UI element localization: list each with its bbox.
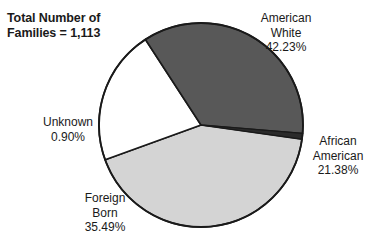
slice-value-african-american: 21.38% (307, 163, 369, 178)
slice-label-unknown-line-1: Unknown (25, 115, 111, 130)
slice-value-unknown: 0.90% (25, 130, 111, 145)
slice-label-american-white-line-2: White (243, 26, 329, 41)
slice-label-foreign-born-line-2: Born (60, 206, 150, 221)
slice-label-american-white: American White 42.23% (243, 11, 329, 55)
slice-value-foreign-born: 35.49% (60, 220, 150, 235)
slice-label-foreign-born: Foreign Born 35.49% (60, 191, 150, 235)
slice-label-unknown: Unknown 0.90% (25, 115, 111, 144)
slice-label-african-american: African American 21.38% (307, 134, 369, 178)
slice-label-foreign-born-line-1: Foreign (60, 191, 150, 206)
pie-chart-figure: Total Number of Families = 1,113 America… (0, 0, 371, 240)
slice-value-american-white: 42.23% (243, 40, 329, 55)
slice-label-african-american-line-1: African (307, 134, 369, 149)
slice-label-american-white-line-1: American (243, 11, 329, 26)
slice-label-african-american-line-2: American (307, 149, 369, 164)
